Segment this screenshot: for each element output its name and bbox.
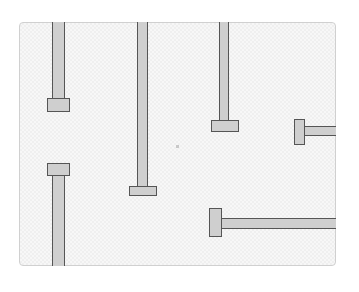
pipe-4-cap[interactable]: [294, 119, 305, 145]
pipe-3-cap[interactable]: [211, 120, 239, 132]
pipe-4-body[interactable]: [304, 126, 336, 136]
pipe-2-cap[interactable]: [129, 186, 157, 196]
pipe-2-body[interactable]: [137, 22, 148, 187]
pipe-1-cap[interactable]: [47, 98, 70, 112]
game-board[interactable]: [19, 22, 336, 266]
pipe-6-body[interactable]: [52, 175, 65, 266]
pipe-6-cap[interactable]: [47, 163, 70, 176]
center-marker: [176, 145, 179, 148]
pipe-5-body[interactable]: [221, 218, 336, 229]
pipe-5-cap[interactable]: [209, 208, 222, 237]
pipe-1-body[interactable]: [52, 22, 65, 99]
pipe-3-body[interactable]: [219, 22, 229, 121]
